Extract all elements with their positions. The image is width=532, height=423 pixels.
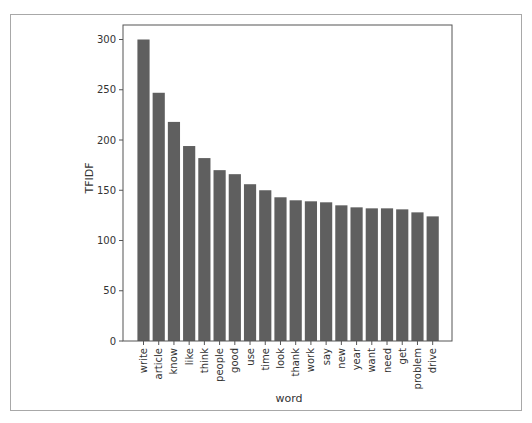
bar-need xyxy=(381,208,393,341)
x-tick-label: year xyxy=(351,347,362,370)
bar-new xyxy=(335,205,347,341)
bar-drive xyxy=(427,216,439,341)
x-tick-label: use xyxy=(245,348,256,366)
y-axis-ticks: 050100150200250300 xyxy=(97,34,123,347)
bar-time xyxy=(259,190,271,341)
x-tick-label: drive xyxy=(427,348,438,373)
y-tick-label: 250 xyxy=(97,84,116,95)
y-tick-label: 50 xyxy=(103,285,116,296)
bar-want xyxy=(366,208,378,341)
bar-use xyxy=(244,184,256,341)
bar-work xyxy=(305,201,317,341)
bar-chart: 050100150200250300 writearticleknowliket… xyxy=(0,0,532,423)
x-tick-label: look xyxy=(275,348,286,369)
x-tick-label: write xyxy=(138,348,149,373)
x-tick-label: thank xyxy=(290,348,301,377)
bar-people xyxy=(214,170,226,341)
bar-say xyxy=(320,202,332,341)
bar-good xyxy=(229,174,241,341)
y-tick-label: 100 xyxy=(97,235,116,246)
bar-think xyxy=(198,158,210,341)
x-tick-label: say xyxy=(321,348,332,365)
y-tick-label: 0 xyxy=(110,336,116,347)
y-tick-label: 300 xyxy=(97,34,116,45)
x-tick-label: new xyxy=(336,348,347,369)
bars-group xyxy=(137,40,438,342)
x-tick-label: work xyxy=(305,348,316,372)
y-tick-label: 150 xyxy=(97,185,116,196)
bar-article xyxy=(153,93,165,341)
bar-like xyxy=(183,146,195,341)
x-tick-label: problem xyxy=(412,348,423,389)
x-tick-label: like xyxy=(184,348,195,365)
x-tick-label: need xyxy=(382,348,393,373)
bar-look xyxy=(274,197,286,341)
y-axis-label: TFIDF xyxy=(83,162,96,194)
x-axis-ticks: writearticleknowlikethinkpeoplegooduseti… xyxy=(138,341,438,389)
x-tick-label: want xyxy=(366,348,377,373)
bar-thank xyxy=(290,200,302,341)
x-tick-label: good xyxy=(229,348,240,373)
x-tick-label: get xyxy=(397,348,408,365)
x-tick-label: think xyxy=(199,348,210,373)
bar-problem xyxy=(411,212,423,341)
bar-know xyxy=(168,122,180,341)
x-tick-label: time xyxy=(260,348,271,371)
x-tick-label: know xyxy=(168,348,179,374)
bar-write xyxy=(137,40,149,342)
bar-get xyxy=(396,209,408,341)
y-tick-label: 200 xyxy=(97,135,116,146)
x-axis-label: word xyxy=(275,392,302,405)
x-tick-label: people xyxy=(214,348,225,382)
x-tick-label: article xyxy=(153,348,164,379)
bar-year xyxy=(350,207,362,341)
